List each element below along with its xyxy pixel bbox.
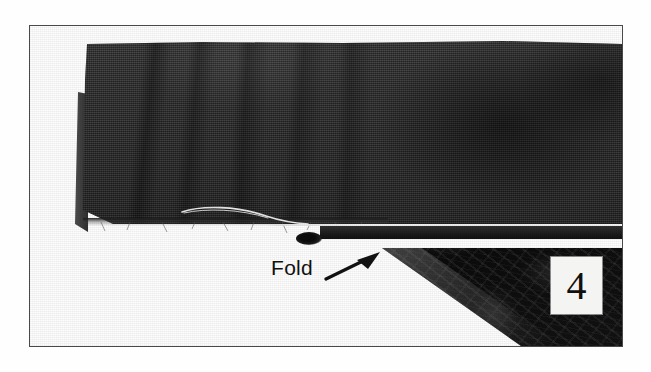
seam-underband (320, 226, 622, 239)
step-number-badge: 4 (551, 257, 602, 314)
step-number-text: 4 (567, 266, 587, 306)
stitch-line (266, 224, 622, 226)
fold-label: Fold (271, 257, 313, 278)
instruction-photograph: Fold 4 (30, 26, 622, 346)
figure-frame: Fold 4 (29, 25, 623, 347)
arrow-up-right-icon (324, 250, 384, 284)
page-background: Fold 4 (0, 0, 651, 372)
top-fabric (83, 40, 622, 224)
thread-knot (296, 232, 322, 245)
